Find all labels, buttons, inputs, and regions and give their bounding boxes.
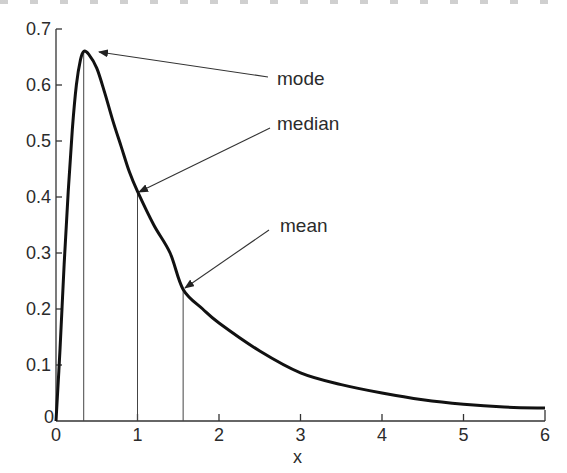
mode-arrow — [99, 52, 268, 77]
x-tick-label: 6 — [540, 425, 550, 445]
y-tick-label: 0.4 — [26, 187, 51, 207]
y-tick-label: 0.7 — [26, 19, 51, 39]
x-tick-label: 4 — [377, 425, 387, 445]
x-tick-label: 2 — [214, 425, 224, 445]
y-tick-label: 0.2 — [26, 299, 51, 319]
x-axis-label: x — [293, 447, 302, 467]
density-chart: 00.10.20.30.40.50.60.7 0123456 mode medi… — [0, 0, 567, 473]
y-tick-label: 0.6 — [26, 75, 51, 95]
y-tick-label: 0 — [44, 407, 54, 427]
y-tick-label: 0.5 — [26, 131, 51, 151]
y-tick-label: 0.3 — [26, 243, 51, 263]
annotation-mode: mode — [99, 52, 325, 89]
annotation-mean: mean — [185, 215, 328, 288]
mean-arrow — [185, 230, 269, 288]
median-label: median — [277, 113, 339, 134]
x-tick-label: 0 — [51, 425, 61, 445]
mean-label: mean — [280, 215, 328, 236]
annotation-median: median — [139, 113, 339, 192]
x-tick-label: 1 — [132, 425, 142, 445]
density-curve — [56, 51, 545, 421]
median-arrow — [139, 128, 270, 192]
x-ticks: 0123456 — [51, 414, 550, 445]
reference-lines — [84, 51, 183, 421]
mode-label: mode — [277, 68, 325, 89]
x-tick-label: 5 — [458, 425, 468, 445]
y-tick-label: 0.1 — [26, 355, 51, 375]
x-tick-label: 3 — [295, 425, 305, 445]
